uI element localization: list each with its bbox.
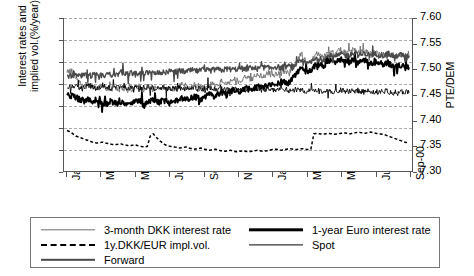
- legend-swatch-icon: [249, 224, 303, 236]
- x-axis-tickmark: [66, 172, 67, 177]
- series-line: [67, 131, 409, 152]
- y-axis-right-tickmark: [413, 18, 417, 19]
- x-axis-tickmark: [376, 172, 377, 177]
- chart-figure: Interest rates and implied vol.(%/year) …: [0, 0, 474, 276]
- legend-item[interactable]: 1-year Euro interest rate: [249, 223, 431, 236]
- y-axis-right-tickmark: [413, 69, 417, 70]
- y-axis-left-title-line1: Interest rates and: [16, 0, 28, 126]
- legend-item[interactable]: 3-month DKK interest rate: [41, 223, 231, 236]
- y-axis-right-tick-label: 7.30: [420, 164, 464, 176]
- legend-item-label: Spot: [312, 239, 335, 251]
- y-axis-left-title-line2: implied vol.(%/year): [28, 0, 40, 126]
- y-axis-right-tickmark: [413, 121, 417, 122]
- legend-item-label: 1y.DKK/EUR impl.vol.: [104, 239, 210, 251]
- legend-swatch-icon: [41, 254, 95, 266]
- x-axis-tickmark: [238, 172, 239, 177]
- y-axis-right-tick-label: 7.55: [420, 36, 464, 48]
- legend-item-label: 1-year Euro interest rate: [312, 224, 431, 236]
- legend-swatch-icon: [249, 239, 303, 251]
- legend-item[interactable]: Spot: [249, 238, 335, 251]
- x-axis-tickmark: [135, 172, 136, 177]
- x-axis-tickmark: [410, 172, 411, 177]
- legend-item[interactable]: Forward: [41, 253, 144, 266]
- x-axis-tickmark: [341, 172, 342, 177]
- y-axis-left-title: Interest rates and implied vol.(%/year): [16, 0, 40, 126]
- legend-swatch-icon: [41, 224, 95, 236]
- legend-swatch-icon: [41, 239, 95, 251]
- y-axis-right-tick-label: 7.40: [420, 113, 464, 125]
- y-axis-right-tickmark: [413, 95, 417, 96]
- x-axis-tickmark: [272, 172, 273, 177]
- x-axis-tickmark: [169, 172, 170, 177]
- x-axis-tickmark: [307, 172, 308, 177]
- y-axis-right-tick-label: 7.60: [420, 10, 464, 22]
- x-axis-tickmark: [204, 172, 205, 177]
- y-axis-right-tick-label: 7.45: [420, 87, 464, 99]
- chart-legend: 3-month DKK interest rate1y.DKK/EUR impl…: [30, 217, 440, 268]
- x-axis-tick-label: Sep-00: [414, 146, 426, 180]
- y-axis-left-tickmark: [59, 172, 63, 173]
- y-axis-right-tick-label: 7.35: [420, 138, 464, 150]
- plot-area: [63, 18, 413, 172]
- legend-item[interactable]: 1y.DKK/EUR impl.vol.: [41, 238, 210, 251]
- y-axis-right-tickmark: [413, 44, 417, 45]
- legend-item-label: 3-month DKK interest rate: [104, 224, 231, 236]
- y-axis-right-tick-label: 7.50: [420, 61, 464, 73]
- x-axis-tickmark: [100, 172, 101, 177]
- series-lines: [64, 18, 412, 171]
- legend-item-label: Forward: [104, 254, 144, 266]
